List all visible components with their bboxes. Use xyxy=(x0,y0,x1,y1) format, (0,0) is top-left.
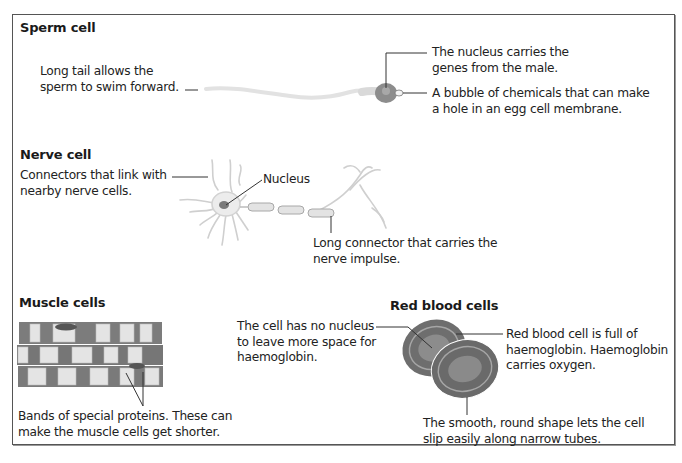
muscle-cells-illustration xyxy=(17,322,163,387)
sperm-acrosome-label: A bubble of chemicals that can make a ho… xyxy=(432,86,650,117)
nerve-connectors-label: Connectors that link with nearby nerve c… xyxy=(20,168,167,199)
rbc-no-nucleus-label: The cell has no nucleus to leave more sp… xyxy=(237,319,376,366)
nerve-axon-label: Long connector that carries the nerve im… xyxy=(313,236,497,267)
rbc-haemoglobin-label: Red blood cell is full of haemoglobin. H… xyxy=(506,327,668,374)
nerve-cell-title: Nerve cell xyxy=(20,147,91,162)
muscle-bands-label: Bands of special proteins. These can mak… xyxy=(18,409,232,440)
red-blood-cells-title: Red blood cells xyxy=(390,298,498,313)
muscle-cells-title: Muscle cells xyxy=(19,295,105,310)
sperm-cell-title: Sperm cell xyxy=(20,20,95,35)
sperm-tail-label: Long tail allows the sperm to swim forwa… xyxy=(40,64,179,95)
sperm-cell-illustration xyxy=(206,83,403,103)
red-blood-cells-illustration xyxy=(394,311,505,406)
sperm-nucleus-label: The nucleus carries the genes from the m… xyxy=(432,45,569,76)
nerve-nucleus-label: Nucleus xyxy=(263,172,310,188)
rbc-shape-label: The smooth, round shape lets the cell sl… xyxy=(423,416,644,447)
